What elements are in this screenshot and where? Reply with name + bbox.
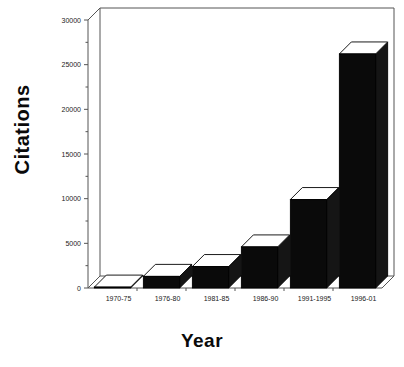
y-axis-tick-labels: 050001000015000200002500030000 bbox=[62, 17, 82, 292]
bar-side-face bbox=[376, 42, 388, 288]
frame-depth-top-left bbox=[88, 8, 100, 20]
y-axis-tick-label: 10000 bbox=[62, 195, 82, 202]
y-axis-tick-label: 15000 bbox=[62, 151, 82, 158]
bar bbox=[290, 188, 338, 288]
bar-front-face bbox=[94, 287, 130, 288]
x-axis-category-label: 1970-75 bbox=[106, 295, 132, 302]
y-axis-tick-label: 20000 bbox=[62, 106, 82, 113]
bar-side-face bbox=[327, 188, 339, 288]
bar-front-face bbox=[290, 200, 326, 288]
x-axis-category-label: 1991-1995 bbox=[298, 295, 332, 302]
bar bbox=[339, 42, 387, 288]
y-axis-ticks bbox=[84, 20, 88, 288]
y-axis-tick-label: 30000 bbox=[62, 17, 82, 24]
bar-front-face bbox=[143, 276, 179, 288]
bar bbox=[143, 264, 191, 288]
y-axis-tick-label: 25000 bbox=[62, 61, 82, 68]
bar bbox=[192, 255, 240, 288]
plot-area: 050001000015000200002500030000 1970-7519… bbox=[0, 0, 404, 367]
x-axis-category-labels: 1970-751976-801981-851986-901991-1995199… bbox=[106, 295, 377, 302]
y-axis-tick-label: 0 bbox=[77, 285, 81, 292]
bar-chart-figure: Citations Year 0500010000150002000025000… bbox=[0, 0, 404, 367]
bar-front-face bbox=[339, 54, 375, 288]
bar-top-face bbox=[94, 275, 142, 287]
x-axis-category-label: 1996-01 bbox=[351, 295, 377, 302]
x-axis-category-label: 1981-85 bbox=[204, 295, 230, 302]
bar bbox=[241, 235, 289, 288]
bar bbox=[94, 275, 142, 288]
y-axis-tick-label: 5000 bbox=[65, 240, 81, 247]
x-axis-category-label: 1986-90 bbox=[253, 295, 279, 302]
bars-group bbox=[94, 42, 387, 291]
bar-front-face bbox=[192, 267, 228, 288]
bar-front-face bbox=[241, 247, 277, 288]
x-axis-category-label: 1976-80 bbox=[155, 295, 181, 302]
